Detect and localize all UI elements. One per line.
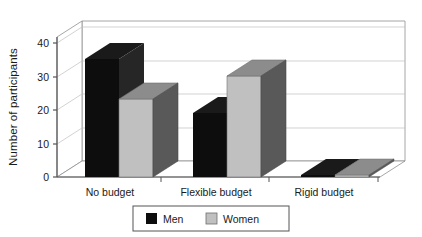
y-tick-label-40: 40 <box>37 37 49 49</box>
bar-chart-figure: 0 10 20 30 40 Number of participants <box>0 0 422 237</box>
legend: Men Women <box>133 206 289 231</box>
y-axis-title: Number of participants <box>7 48 19 166</box>
y-axis: 0 10 20 30 40 Number of participants <box>7 37 57 183</box>
bar-front-face <box>193 113 227 177</box>
left-wall <box>57 21 82 177</box>
bar-front-face <box>85 59 119 177</box>
legend-label-women: Women <box>223 213 259 225</box>
x-axis <box>57 177 380 182</box>
bar-front-face <box>119 99 153 177</box>
bar-front-face <box>335 175 369 177</box>
category-label-rigid-budget: Rigid budget <box>295 186 354 198</box>
bar-women-no-budget <box>119 83 178 177</box>
bar-front-face <box>227 76 261 177</box>
category-label-no-budget: No budget <box>86 186 135 198</box>
legend-swatch-women <box>206 213 217 224</box>
chart-canvas: 0 10 20 30 40 Number of participants <box>0 0 422 237</box>
bar-front-face <box>301 175 335 177</box>
y-tick-label-30: 30 <box>37 71 49 83</box>
y-tick-label-20: 20 <box>37 104 49 116</box>
bar-women-flexible-budget <box>227 60 286 177</box>
category-labels: No budget Flexible budget Rigid budget <box>86 186 354 198</box>
legend-swatch-men <box>146 213 157 224</box>
y-tick-label-0: 0 <box>43 171 49 183</box>
legend-label-men: Men <box>163 213 184 225</box>
category-label-flexible-budget: Flexible budget <box>180 186 251 198</box>
bar-side-face <box>261 60 286 177</box>
bar-side-face <box>153 83 178 177</box>
y-tick-label-10: 10 <box>37 138 49 150</box>
